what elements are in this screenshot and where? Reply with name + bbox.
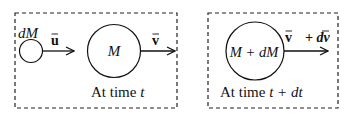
right-panel: M + dM v + dv At time t + dt [208, 13, 338, 108]
velocity-v-label-right: v [285, 30, 292, 45]
main-mass-label: M [107, 43, 122, 59]
left-panel: dM u M v At time t [15, 13, 177, 108]
velocity-u-label: u [51, 33, 59, 48]
small-mass-label: dM [18, 25, 40, 41]
small-mass-circle [20, 40, 43, 63]
velocity-u: u [51, 33, 59, 48]
combined-mass-label: M + dM [229, 44, 279, 60]
velocity-v-right: v [285, 30, 292, 45]
left-caption: At time t [91, 84, 145, 100]
caption-time: t + dt [269, 84, 303, 100]
caption-time: t [140, 84, 145, 100]
variable-mass-diagram: dM u M v At time t M + dM v + dv At time [0, 0, 350, 116]
velocity-v-label: v [152, 33, 159, 48]
velocity-v: v [152, 33, 159, 48]
caption-prefix: At time [91, 84, 140, 100]
caption-prefix: At time [220, 84, 269, 100]
velocity-increment: + dv [305, 30, 330, 45]
velocity-increment-label: + dv [305, 30, 330, 45]
right-caption: At time t + dt [220, 84, 303, 100]
